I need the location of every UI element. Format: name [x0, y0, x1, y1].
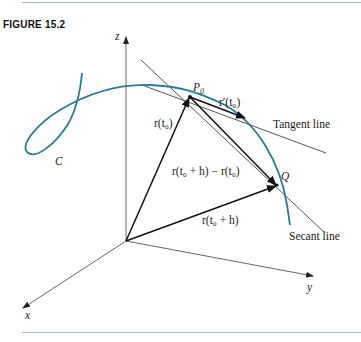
z-axis-label: z — [114, 30, 120, 42]
curve-label: C — [55, 155, 63, 167]
vector-r-t0-h — [126, 186, 276, 241]
x-axis-label: x — [24, 309, 31, 321]
secant-line-label: Secant line — [289, 230, 340, 242]
y-axis-label: y — [306, 281, 313, 294]
y-axis — [126, 241, 313, 276]
tangent-line-label: Tangent line — [273, 118, 330, 131]
curve-c — [26, 73, 290, 225]
point-q — [275, 183, 278, 186]
r-t0-h-label: r(t₀ + h) — [202, 214, 239, 227]
axes — [23, 37, 313, 308]
point-p0 — [188, 95, 192, 99]
r-t0-label: r(t₀) — [154, 117, 173, 130]
diagram: z y x C P0 Q r′(t₀) r(t₀) r(t₀ + h) − r(… — [0, 0, 361, 342]
r-prime-label: r′(t₀) — [219, 96, 240, 109]
x-axis — [23, 241, 126, 308]
r-diff-label: r(t₀ + h) − r(t₀) — [172, 165, 240, 178]
q-label: Q — [281, 170, 290, 182]
